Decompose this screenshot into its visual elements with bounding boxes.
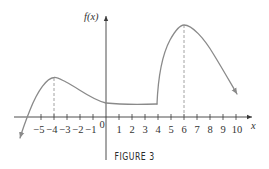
tick-label: 5 xyxy=(168,124,173,135)
tick-label: −5 xyxy=(33,124,44,135)
curve-flat-segment xyxy=(106,103,157,104)
tick-label: 9 xyxy=(220,124,225,135)
x-axis-label: x xyxy=(250,120,256,131)
tick-label: 8 xyxy=(207,124,212,135)
tick-label: 1 xyxy=(116,124,121,135)
tick-label: −1 xyxy=(85,124,96,135)
tick-label: 2 xyxy=(129,124,134,135)
tick-label: 3 xyxy=(142,124,147,135)
function-graph: f(x) x −5 −4 −3 −2 −1 0 1 2 3 4 5 6 7 8 … xyxy=(0,0,269,169)
tick-label: 6 xyxy=(181,124,186,135)
tick-label: −4 xyxy=(46,124,58,135)
tick-label: 10 xyxy=(232,124,243,135)
origin-label: 0 xyxy=(99,119,104,130)
x-tick-labels: −5 −4 −3 −2 −1 0 1 2 3 4 5 6 7 8 9 10 xyxy=(33,119,242,135)
tick-label: −3 xyxy=(59,124,70,135)
figure-caption: FIGURE 3 xyxy=(24,150,245,162)
tick-label: 4 xyxy=(155,124,161,135)
tick-label: 7 xyxy=(194,124,199,135)
tick-label: −2 xyxy=(72,124,83,135)
curve-right-segment xyxy=(157,25,237,104)
y-axis-label: f(x) xyxy=(84,11,99,23)
